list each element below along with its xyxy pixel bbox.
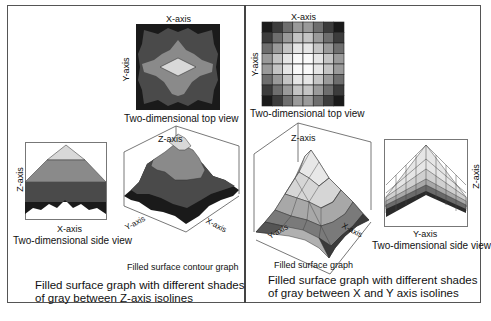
left-top-view-y-axis-label: Y-axis	[122, 57, 131, 81]
right-side-view-y-axis-label: Y-axis	[413, 230, 437, 239]
right-side-view-z-axis-label: Z-axis	[472, 164, 481, 189]
right-top-view-grid	[262, 22, 344, 106]
right-surface-caption: Filled surface graph	[274, 261, 353, 270]
right-description-line2: of gray between X and Y axis isolines	[268, 287, 459, 300]
left-side-view-chart	[25, 142, 107, 220]
left-top-view-x-axis-label: X-axis	[166, 15, 191, 24]
panel-divider	[244, 5, 246, 303]
right-description-line1: Filled surface graph with different shad…	[268, 274, 477, 287]
left-description-line2: of gray between Z-axis isolines	[35, 292, 193, 305]
right-surface-graph	[253, 122, 378, 297]
right-surface-z-axis-label: Z-axis	[291, 134, 316, 143]
left-side-view-z-axis-label: Z-axis	[16, 167, 25, 192]
left-side-view-caption: Two-dimensional side view	[13, 236, 132, 246]
left-side-view-x-axis-label: X-axis	[57, 225, 82, 234]
left-top-view-contour	[136, 24, 220, 110]
right-top-view-x-axis-label: X-axis	[291, 13, 316, 22]
left-surface-caption: Filled surface contour graph	[127, 263, 239, 272]
right-top-view-y-axis-label: Y-axis	[251, 52, 260, 76]
left-surface-z-axis-label: Z-axis	[158, 135, 183, 144]
left-top-view-caption: Two-dimensional top view	[124, 114, 239, 124]
right-side-view-chart	[384, 139, 468, 227]
right-top-view-caption: Two-dimensional top view	[250, 109, 365, 119]
left-description-line1: Filled surface graph with different shad…	[35, 279, 244, 292]
right-side-view-caption: Two-dimensional side view	[372, 241, 491, 251]
